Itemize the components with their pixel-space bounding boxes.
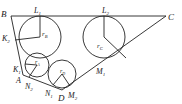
radius-A-label: rA [35, 59, 40, 67]
vertex-B-label: B [1, 9, 7, 19]
point-N1-label: N1 [44, 89, 53, 99]
point-L1-label: L1 [33, 6, 41, 16]
point-M2-label: M2 [67, 91, 78, 101]
point-K1-label: K1 [12, 65, 21, 75]
side-CD [62, 16, 166, 90]
geometry-diagram: B C D A L1 L2 K2 K1 N2 N1 M2 M1 rB rC rA… [0, 0, 182, 104]
radius-B-label: rB [42, 30, 48, 39]
radius-C-label: rC [97, 42, 104, 51]
point-K2-label: K2 [1, 34, 10, 44]
vertex-C-label: C [168, 12, 175, 22]
vertex-D-label: D [57, 93, 65, 103]
radius-D-label: rD [60, 68, 65, 76]
radius-D [53, 74, 70, 86]
vertex-A-label: A [15, 76, 21, 85]
point-N2-label: N2 [24, 82, 33, 92]
diagram-svg: B C D A L1 L2 K2 K1 N2 N1 M2 M1 rB rC rA… [0, 0, 182, 104]
radius-C [104, 16, 126, 58]
point-M1-label: M1 [95, 67, 105, 77]
point-L2-label: L2 [101, 6, 109, 16]
